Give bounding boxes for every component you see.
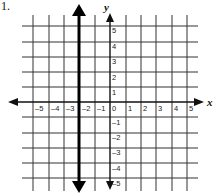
y-axis-label: y: [102, 1, 109, 13]
bold-line-up-arrow-icon: [72, 4, 86, 16]
x-axis-left-arrow-icon: [8, 98, 18, 106]
svg-text:–5: –5: [35, 104, 43, 113]
svg-text:3: 3: [112, 57, 116, 66]
svg-text:2: 2: [112, 73, 116, 82]
svg-text:–1: –1: [112, 118, 120, 127]
svg-text:1: 1: [128, 104, 132, 113]
svg-text:0: 0: [112, 104, 116, 113]
svg-text:4: 4: [174, 104, 178, 113]
svg-text:3: 3: [158, 104, 162, 113]
svg-text:–4: –4: [51, 104, 59, 113]
svg-text:4: 4: [112, 42, 116, 51]
svg-text:–2: –2: [112, 133, 120, 142]
svg-text:1: 1: [112, 88, 116, 97]
x-axis-label: x: [206, 96, 213, 108]
bold-line-down-arrow-icon: [72, 181, 86, 193]
svg-text:–2: –2: [82, 104, 90, 113]
svg-text:5: 5: [112, 26, 116, 35]
svg-text:–3: –3: [66, 104, 74, 113]
svg-text:–1: –1: [97, 104, 105, 113]
x-axis-right-arrow-icon: [194, 98, 204, 106]
svg-text:–4: –4: [112, 164, 120, 173]
svg-text:5: 5: [189, 104, 193, 113]
svg-text:–5: –5: [112, 179, 120, 188]
svg-text:2: 2: [143, 104, 147, 113]
x-tick-labels: –5 –4 –3 –2 –1 0 1 2 3 4 5: [35, 104, 193, 113]
svg-text:–3: –3: [112, 148, 120, 157]
coordinate-grid: y x –5 –4 –3 –2 –1 0 1 2 3 4 5 5 4 3 2 1…: [0, 0, 216, 194]
y-axis-up-arrow-icon: [106, 13, 114, 22]
